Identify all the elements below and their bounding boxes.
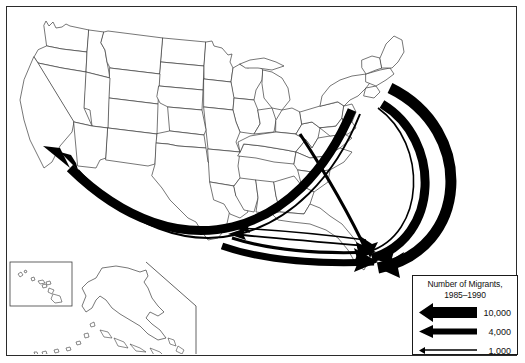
legend: Number of Migrants, 1985–1990 10,000 4, [412,275,518,355]
arrow-medium-icon [417,322,479,341]
legend-entry-10000: 10,000 [417,303,513,322]
legend-value-10000: 10,000 [479,308,513,318]
hawaii-inset [10,262,72,306]
legend-value-4000: 4,000 [479,327,513,337]
arrow-thin-icon [417,341,479,360]
legend-title: Number of Migrants, 1985–1990 [417,279,513,300]
legend-entry-1000: 1,000 [417,341,513,360]
flow-northeast-to-florida-thick-inner [372,104,425,258]
legend-title-line2: 1985–1990 [417,290,513,301]
legend-title-line1: Number of Migrants, [417,279,513,290]
legend-entry-4000: 4,000 [417,322,513,341]
figure-canvas: Number of Migrants, 1985–1990 10,000 4, [0,0,525,363]
alaska-mainland [82,266,166,340]
legend-entries: 10,000 4,000 1,000 [417,303,513,360]
arrow-thick-icon [417,303,479,322]
legend-value-1000: 1,000 [479,346,513,356]
